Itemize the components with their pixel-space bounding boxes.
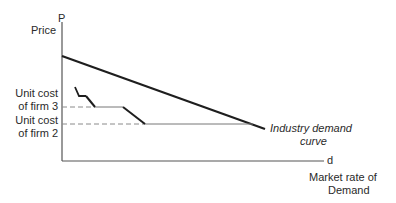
firm3-cost-label-line2: of firm 3 xyxy=(4,100,58,113)
firm2-cost-label-line1: Unit cost xyxy=(4,114,58,127)
demand-curve-label-line1: Industry demand xyxy=(270,122,352,135)
firm2-cost-label-line2: of firm 2 xyxy=(4,127,58,140)
y-axis-label: Price xyxy=(20,24,56,37)
firm-supply-step-1 xyxy=(75,87,86,96)
industry-demand-curve xyxy=(62,56,265,129)
x-axis-label-line2: Demand xyxy=(328,184,370,197)
x-axis-symbol: d xyxy=(327,154,333,167)
firm3-cost-label-line1: Unit cost xyxy=(4,87,58,100)
firm-supply-step-3 xyxy=(123,107,145,124)
demand-curve-label-line2: curve xyxy=(300,135,327,148)
y-axis-symbol: P xyxy=(58,12,65,25)
x-axis-label-line1: Market rate of xyxy=(309,171,377,184)
firm-supply-step-2 xyxy=(86,96,95,107)
